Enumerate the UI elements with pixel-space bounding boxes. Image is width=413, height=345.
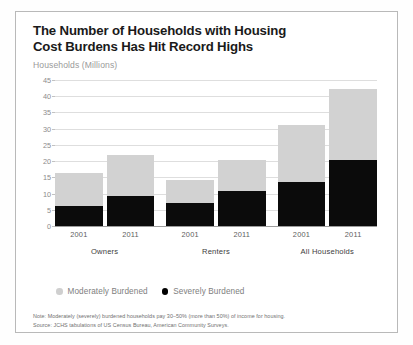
footnote-source: Source: JCHS tabulations of US Census Bu… [33,321,378,330]
y-tick-label-30: 30 [43,124,51,133]
bar-column [55,80,103,226]
x-axis-tick-labels: 200120112001201120012011 [55,230,377,242]
legend-dot-moderate-icon [56,288,63,295]
stacked-bar [55,173,103,226]
bar-column [107,80,155,226]
bar-segment-moderately-burdened [166,180,214,203]
bar-segment-severely-burdened [55,206,103,226]
chart-legend: Moderately Burdened Severely Burdened [56,287,245,296]
title-line-1: The Number of Households with Housing [33,23,286,38]
x-group-label-renters: Renters [166,247,265,256]
bar-segment-severely-burdened [278,182,326,226]
y-tick-label-5: 5 [47,205,51,214]
y-tick-label-40: 40 [43,92,51,101]
legend-label-severe: Severely Burdened [173,287,244,296]
legend-item-severely-burdened: Severely Burdened [162,287,245,296]
stacked-bar [218,160,266,226]
title-line-2: Cost Burdens Has Hit Record Highs [33,39,253,54]
bar-segment-moderately-burdened [218,160,266,190]
x-group-label-all-households: All Households [278,247,377,256]
bar-column [218,80,266,226]
bar-segment-moderately-burdened [278,125,326,182]
bar-segment-moderately-burdened [107,155,155,196]
x-tick-label: 2011 [218,230,266,239]
y-tick-label-35: 35 [43,108,51,117]
footnote-note: Note: Moderately (severely) burdened hou… [33,312,378,321]
chart-page: The Number of Households with Housing Co… [0,0,413,345]
chart-header: The Number of Households with Housing Co… [33,23,363,70]
y-tick-label-45: 45 [43,76,51,85]
legend-item-moderately-burdened: Moderately Burdened [56,287,148,296]
bar-series-container [55,80,377,226]
y-tick-label-15: 15 [43,173,51,182]
stacked-bar [107,155,155,226]
y-tick-label-20: 20 [43,157,51,166]
x-tick-label: 2001 [55,230,103,239]
y-tick-label-10: 10 [43,189,51,198]
bar-segment-severely-burdened [107,196,155,226]
stacked-bar [166,180,214,226]
bar-segment-severely-burdened [329,160,377,226]
x-tick-label: 2011 [329,230,377,239]
x-tick-label: 2001 [166,230,214,239]
x-tick-label: 2001 [278,230,326,239]
gridline-0: 0 [55,226,377,227]
bar-segment-moderately-burdened [329,89,377,160]
plot-area: 051015202530354045 200120112001201120012… [33,80,381,276]
y-tick-mark-0 [52,226,55,227]
bar-segment-severely-burdened [218,191,266,226]
legend-label-moderate: Moderately Burdened [68,287,148,296]
x-tick-label: 2011 [107,230,155,239]
stacked-bar [329,89,377,226]
bar-segment-moderately-burdened [55,173,103,205]
y-tick-label-0: 0 [47,222,51,231]
page-title: The Number of Households with Housing Co… [33,23,363,54]
y-tick-label-25: 25 [43,140,51,149]
bar-column [329,80,377,226]
chart-card: The Number of Households with Housing Co… [15,11,398,333]
x-group-label-owners: Owners [55,247,154,256]
x-axis-group-labels: OwnersRentersAll Households [55,247,377,259]
bar-column [166,80,214,226]
chart-footnotes: Note: Moderately (severely) burdened hou… [33,312,378,330]
legend-dot-severe-icon [162,288,169,295]
bar-column [278,80,326,226]
bar-segment-severely-burdened [166,203,214,226]
plot-canvas: 051015202530354045 [55,80,377,226]
chart-subtitle: Households (Millions) [33,60,363,70]
stacked-bar [278,125,326,226]
